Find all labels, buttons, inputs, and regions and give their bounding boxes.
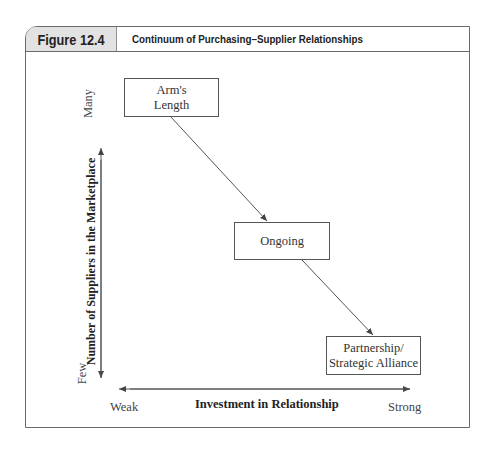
- node-label: Ongoing: [260, 234, 304, 249]
- y-axis-low: Few: [75, 354, 90, 394]
- node-ongoing: Ongoing: [234, 222, 330, 260]
- x-axis-label: Investment in Relationship: [195, 397, 339, 412]
- node-label: Partnership/: [343, 341, 403, 355]
- node-label: Length: [154, 98, 189, 112]
- node-partnership: Partnership/Strategic Alliance: [326, 336, 421, 375]
- node-label: Arm's: [156, 83, 186, 97]
- node-label: Strategic Alliance: [329, 356, 418, 370]
- node-arms-length: Arm'sLength: [124, 78, 219, 117]
- connector-ongoing-partnership: [302, 260, 373, 335]
- y-axis-label: Number of Suppliers in the Marketplace: [84, 147, 99, 377]
- x-axis-low: Weak: [110, 400, 138, 415]
- connector-armslength-ongoing: [170, 116, 267, 221]
- x-axis-high: Strong: [388, 400, 421, 415]
- y-axis-high: Many: [81, 84, 96, 124]
